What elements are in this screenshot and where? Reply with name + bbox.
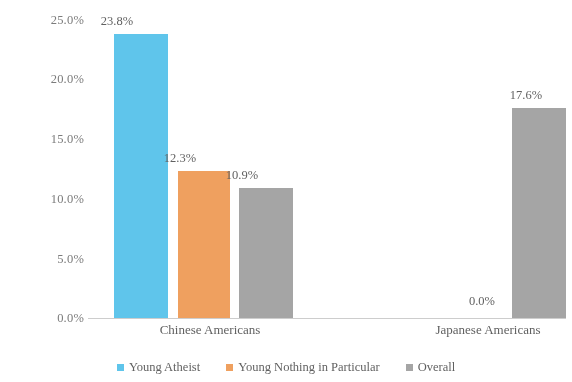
bar-chart: 25.0% 20.0% 15.0% 10.0% 5.0% 0.0% 23.8% … [0, 0, 572, 382]
legend-label-young-atheist: Young Atheist [129, 360, 200, 374]
legend-label-overall: Overall [418, 360, 455, 374]
y-tick-label-10: 10.0% [6, 193, 84, 205]
legend-swatch-icon-young-atheist [117, 364, 124, 371]
bar-chinese-overall [239, 188, 293, 318]
legend-label-young-nothing-in-particular: Young Nothing in Particular [238, 360, 379, 374]
category-label-chinese-americans: Chinese Americans [130, 322, 290, 338]
bar-value-chinese-overall: 10.9% [214, 169, 270, 182]
bar-value-chinese-young-nothing-in-particular: 12.3% [152, 152, 208, 165]
legend-swatch-icon-overall [406, 364, 413, 371]
legend-item-young-atheist: Young Atheist [117, 360, 200, 374]
y-axis: 25.0% 20.0% 15.0% 10.0% 5.0% 0.0% [0, 0, 84, 382]
bar-value-japanese-overall: 17.6% [498, 89, 554, 102]
bar-value-japanese-young-nothing-in-particular: 0.0% [460, 295, 504, 308]
chart-legend: Young Atheist Young Nothing in Particula… [0, 360, 572, 374]
y-tick-label-15: 15.0% [6, 133, 84, 145]
x-axis-baseline [88, 318, 566, 319]
bar-japanese-overall [512, 108, 566, 318]
y-tick-label-5: 5.0% [6, 253, 84, 265]
legend-item-overall: Overall [406, 360, 455, 374]
y-tick-label-25: 25.0% [6, 14, 84, 26]
plot-area [88, 20, 566, 318]
bar-chinese-young-nothing-in-particular [178, 171, 230, 318]
y-tick-label-20: 20.0% [6, 73, 84, 85]
bar-value-chinese-young-atheist: 23.8% [89, 15, 145, 28]
y-tick-label-0: 0.0% [6, 312, 84, 324]
category-label-japanese-americans: Japanese Americans [404, 322, 572, 338]
legend-swatch-icon-young-nothing-in-particular [226, 364, 233, 371]
legend-item-young-nothing-in-particular: Young Nothing in Particular [226, 360, 379, 374]
bar-chinese-young-atheist [114, 34, 168, 318]
